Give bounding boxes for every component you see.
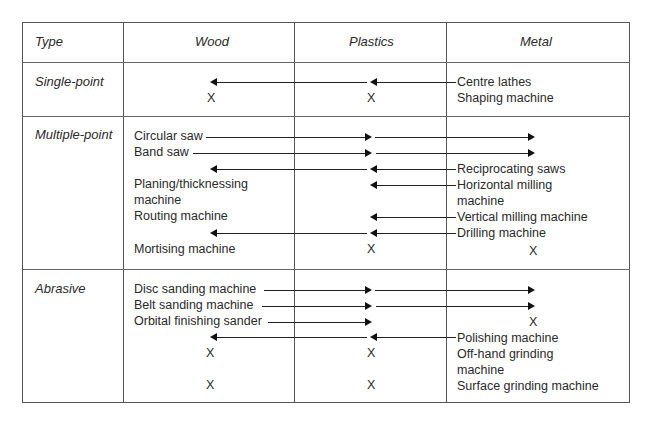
wood-item: Planing/thicknessing [134,177,248,192]
wood-item: Orbital finishing sander [134,314,262,329]
arrow-line [376,153,528,154]
column-divider-type-wood [123,22,124,403]
header-row-divider [22,62,630,63]
wood-item: Mortising machine [134,242,235,257]
x-mark-plastics: X [367,91,375,106]
x-mark-plastics: X [367,242,375,257]
arrow-line [375,137,528,138]
metal-item: machine [457,194,504,209]
arrow-line [193,153,366,154]
header-wood: Wood [195,34,229,49]
arrow-line [375,290,528,291]
arrow-right-icon [528,302,535,310]
metal-item: Horizontal milling [457,178,552,193]
x-mark-wood: X [206,378,214,393]
wood-item: Belt sanding machine [134,298,254,313]
x-mark-metal: X [529,244,537,259]
header-plastics: Plastics [349,34,394,49]
x-mark-wood: X [206,346,214,361]
x-mark-metal: X [529,315,537,330]
metal-item: Vertical milling machine [457,210,588,225]
wood-item: Circular saw [134,129,203,144]
row-divider-multiple-point [22,269,630,270]
arrow-right-icon [365,302,372,310]
arrow-right-icon [528,149,535,157]
column-divider-wood-plastics [294,22,295,403]
metal-item: Reciprocating saws [457,162,565,177]
arrow-line [264,290,366,291]
arrow-left-icon [370,229,377,237]
wood-item: Routing machine [134,209,228,224]
arrow-right-icon [365,133,372,141]
arrow-line [268,322,366,323]
arrow-left-icon [210,165,217,173]
arrow-right-icon [365,286,372,294]
arrow-line [377,185,456,186]
arrow-right-icon [365,149,372,157]
arrow-line [262,306,366,307]
arrow-left-icon [370,165,377,173]
arrow-line [217,169,367,170]
arrow-line [377,233,456,234]
arrow-line [217,233,367,234]
metal-item: Off-hand grinding [457,347,553,362]
header-type: Type [35,34,63,49]
metal-item: Polishing machine [457,331,558,346]
metal-item: Drilling machine [457,226,546,241]
arrow-left-icon [210,78,217,86]
metal-item: Surface grinding machine [457,379,599,394]
row-label-multiple-point: Multiple-point [35,127,112,142]
arrow-line [376,306,528,307]
row-label-single-point: Single-point [35,74,104,89]
arrow-left-icon [370,78,377,86]
arrow-line [377,337,456,338]
x-mark-wood: X [207,91,215,106]
row-divider-single-point [22,116,630,117]
metal-item: Centre lathes [457,75,531,90]
arrow-line [377,82,456,83]
arrow-line [377,169,456,170]
arrow-right-icon [528,133,535,141]
arrow-line [377,217,456,218]
arrow-line [217,82,367,83]
metal-item: Shaping machine [457,91,554,106]
metal-item: machine [457,363,504,378]
arrow-left-icon [370,333,377,341]
arrow-left-icon [210,333,217,341]
arrow-line [217,337,367,338]
arrow-left-icon [370,181,377,189]
arrow-left-icon [210,229,217,237]
arrow-left-icon [370,213,377,221]
header-metal: Metal [520,34,552,49]
x-mark-plastics: X [367,346,375,361]
row-label-abrasive: Abrasive [35,281,86,296]
arrow-line [206,137,366,138]
column-divider-plastics-metal [446,22,447,403]
arrow-right-icon [528,286,535,294]
wood-item: Disc sanding machine [134,282,256,297]
arrow-right-icon [365,318,372,326]
wood-item: Band saw [134,145,189,160]
x-mark-plastics: X [367,378,375,393]
wood-item: machine [134,193,181,208]
